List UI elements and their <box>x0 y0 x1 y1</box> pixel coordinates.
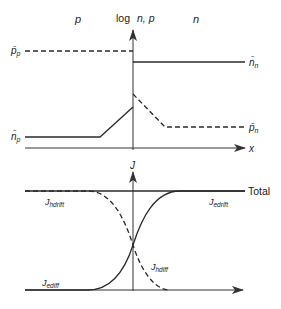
nn-label: n̄n <box>249 56 259 69</box>
jhdrift-label: Jhdrift <box>44 197 65 208</box>
bottom-plot: J Total Jhdrift Jedrift Jhdiff Jediff <box>25 160 270 291</box>
np-label: n̄p <box>11 130 21 144</box>
j-axis-label: J <box>129 160 136 171</box>
x-axis-label: x <box>248 143 255 154</box>
y-axis-label-log: log <box>116 12 130 24</box>
jediff-label: Jediff <box>41 278 60 289</box>
jedrift-label: Jedrift <box>208 197 229 208</box>
y-axis-label-np: n, p <box>137 12 155 24</box>
pn-label: p̄n <box>248 122 259 134</box>
region-p-label: p <box>74 13 81 25</box>
pn-curve <box>133 94 245 127</box>
top-plot: p n log n, p x p̄p n̄n n̄p p̄n <box>10 12 259 154</box>
jhdiff-label: Jhdiff <box>150 262 169 273</box>
np-curve <box>25 107 133 137</box>
pp-label: p̄p <box>10 45 21 58</box>
region-n-label: n <box>193 13 199 25</box>
total-label: Total <box>248 185 270 197</box>
pn-junction-diagram: p n log n, p x p̄p n̄n n̄p p̄n J <box>0 0 281 309</box>
